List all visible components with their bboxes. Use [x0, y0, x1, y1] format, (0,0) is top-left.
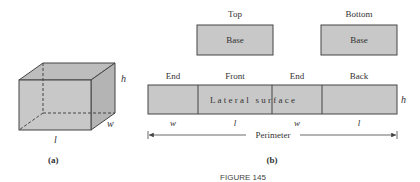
panel-a-label: (a) [48, 155, 59, 165]
bottom-base-label: Base [350, 35, 368, 45]
rectangular-prism [19, 63, 115, 130]
section-dim-end-1: w [170, 118, 176, 128]
box-width-label: w [107, 118, 114, 129]
figure-canvas: h w l (a) Top Base Bottom Base End Front… [0, 0, 420, 182]
section-dim-front: l [234, 118, 237, 128]
box-length-label: l [54, 134, 57, 145]
bottom-title: Bottom [345, 9, 372, 19]
top-base-label: Base [226, 35, 244, 45]
section-title-end-1: End [166, 71, 181, 81]
top-title: Top [228, 9, 242, 19]
lateral-surface-label: L a t e r a l s u r f a c e [210, 95, 295, 105]
figure-caption: FIGURE 145 [220, 173, 266, 182]
section-title-end-2: End [290, 71, 305, 81]
box-height-label: h [121, 73, 126, 84]
section-dim-back: l [358, 118, 361, 128]
section-title-front: Front [225, 71, 245, 81]
section-dim-end-2: w [294, 118, 300, 128]
strip-height-label: h [401, 94, 406, 105]
section-title-back: Back [350, 71, 369, 81]
perimeter-label: Perimeter [256, 130, 291, 140]
panel-b-label: (b) [267, 155, 278, 165]
